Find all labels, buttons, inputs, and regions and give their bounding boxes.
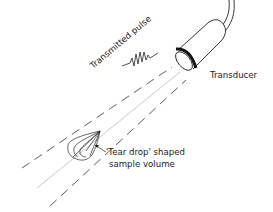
ultrasound-beam-diagram: Transmitted pulse Transducer 'Tear drop'…	[0, 0, 273, 212]
beam-center-line	[37, 72, 180, 188]
pulse-label: Transmitted pulse	[87, 14, 153, 72]
transducer-cable	[222, 0, 229, 26]
sample-volume-label-line2: sample volume	[109, 159, 175, 169]
sample-volume-label-line1: 'Tear drop' shaped	[106, 147, 185, 157]
teardrop-sample-volume	[68, 131, 100, 160]
transducer	[172, 0, 234, 73]
beam-lower-edge	[50, 80, 186, 206]
beam	[22, 67, 186, 206]
pulse-waveform-icon	[122, 52, 158, 66]
transducer-label: Transducer	[209, 70, 258, 80]
